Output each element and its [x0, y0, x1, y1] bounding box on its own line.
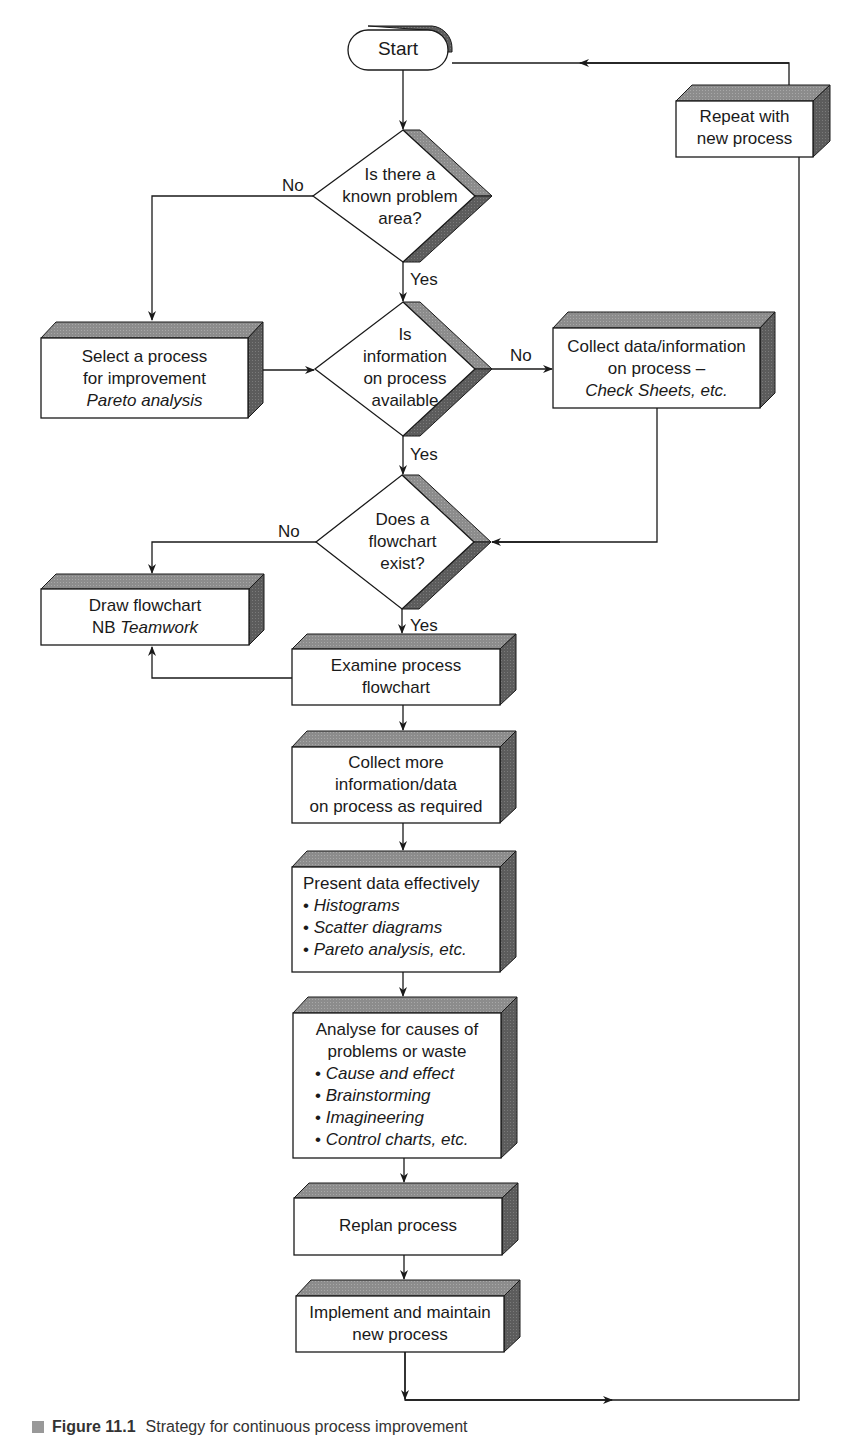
bullet-icon: • — [315, 1086, 321, 1105]
replan-box: Replan process — [294, 1215, 502, 1237]
collect-more-box: Collect more information/data on process… — [292, 752, 500, 818]
analyse-bullet-3: • Imagineering — [315, 1107, 501, 1129]
decision-known-problem-line-3: area? — [320, 208, 480, 230]
present-data-box: Present data effectively • Histograms • … — [303, 873, 498, 961]
repeat-box-line-1: Repeat with — [676, 106, 813, 128]
decision-info-line-1: Is — [330, 324, 480, 346]
analyse-title-line-1: Analyse for causes of — [293, 1019, 501, 1041]
select-process-line-1: Select a process — [41, 346, 248, 368]
edge-label-no-info-available: No — [510, 346, 532, 366]
decision-flowchart-exists: Does a flowchart exist? — [330, 509, 475, 575]
collect-data-method: Check Sheets — [585, 381, 691, 400]
collect-data-suffix: , etc. — [691, 381, 728, 400]
analyse-bullet-2: • Brainstorming — [315, 1085, 501, 1107]
collect-data-line-2: on process – — [553, 358, 760, 380]
decision-known-problem: Is there a known problem area? — [320, 164, 480, 230]
edge-label-no-flowchart: No — [278, 522, 300, 542]
decision-info-line-3: on process — [330, 368, 480, 390]
examine-line-1: Examine process — [292, 655, 500, 677]
bullet-icon: • — [315, 1108, 321, 1127]
draw-flowchart-line-1: Draw flowchart — [41, 595, 249, 617]
select-process-line-2: for improvement — [41, 368, 248, 390]
collect-data-line-1: Collect data/information — [553, 336, 760, 358]
present-data-bullet-3: • Pareto analysis, etc. — [303, 939, 498, 961]
caption-marker-icon — [32, 1421, 44, 1433]
bullet-icon: • — [315, 1064, 321, 1083]
edge-label-yes-info-available: Yes — [410, 445, 438, 465]
analyse-bullet-1: • Cause and effect — [315, 1063, 501, 1085]
draw-flowchart-prefix: NB — [92, 618, 120, 637]
collect-data-line-3: Check Sheets, etc. — [553, 380, 760, 402]
edge-label-yes-flowchart: Yes — [410, 616, 438, 636]
present-data-title: Present data effectively — [303, 873, 498, 895]
caption-text: Strategy for continuous process improvem… — [146, 1418, 468, 1435]
bullet-icon: • — [303, 896, 309, 915]
analyse-box: Analyse for causes of problems or waste … — [293, 1019, 501, 1151]
decision-info-line-2: information — [330, 346, 480, 368]
caption-label: Figure 11.1 — [52, 1418, 136, 1435]
implement-line-1: Implement and maintain — [296, 1302, 504, 1324]
decision-known-problem-line-2: known problem — [320, 186, 480, 208]
start-terminator-label: Start — [348, 38, 448, 60]
collect-data-box: Collect data/information on process – Ch… — [553, 336, 760, 402]
decision-known-problem-line-1: Is there a — [320, 164, 480, 186]
bullet-icon: • — [303, 940, 309, 959]
figure-caption: Figure 11.1Strategy for continuous proce… — [32, 1418, 468, 1436]
collect-more-line-3: on process as required — [292, 796, 500, 818]
draw-flowchart-line-2: NB Teamwork — [41, 617, 249, 639]
collect-more-line-2: information/data — [292, 774, 500, 796]
decision-info-line-4: available — [330, 390, 480, 412]
implement-box: Implement and maintain new process — [296, 1302, 504, 1346]
repeat-box: Repeat with new process — [676, 106, 813, 150]
decision-flowchart-line-1: Does a — [330, 509, 475, 531]
edge-label-yes-known-problem: Yes — [410, 270, 438, 290]
analyse-bullet-4: • Control charts, etc. — [315, 1129, 501, 1151]
select-process-box: Select a process for improvement Pareto … — [41, 346, 248, 412]
present-data-bullet-2: • Scatter diagrams — [303, 917, 498, 939]
select-process-method: Pareto analysis — [41, 390, 248, 412]
decision-flowchart-line-3: exist? — [330, 553, 475, 575]
present-data-bullet-1: • Histograms — [303, 895, 498, 917]
examine-flowchart-box: Examine process flowchart — [292, 655, 500, 699]
bullet-icon: • — [315, 1130, 321, 1149]
implement-line-2: new process — [296, 1324, 504, 1346]
decision-flowchart-line-2: flowchart — [330, 531, 475, 553]
repeat-box-line-2: new process — [676, 128, 813, 150]
analyse-title-line-2: problems or waste — [293, 1041, 501, 1063]
edge-label-no-known-problem: No — [282, 176, 304, 196]
collect-more-line-1: Collect more — [292, 752, 500, 774]
bullet-icon: • — [303, 918, 309, 937]
examine-line-2: flowchart — [292, 677, 500, 699]
draw-flowchart-box: Draw flowchart NB Teamwork — [41, 595, 249, 639]
draw-flowchart-note: Teamwork — [120, 618, 198, 637]
decision-info-available: Is information on process available — [330, 324, 480, 412]
